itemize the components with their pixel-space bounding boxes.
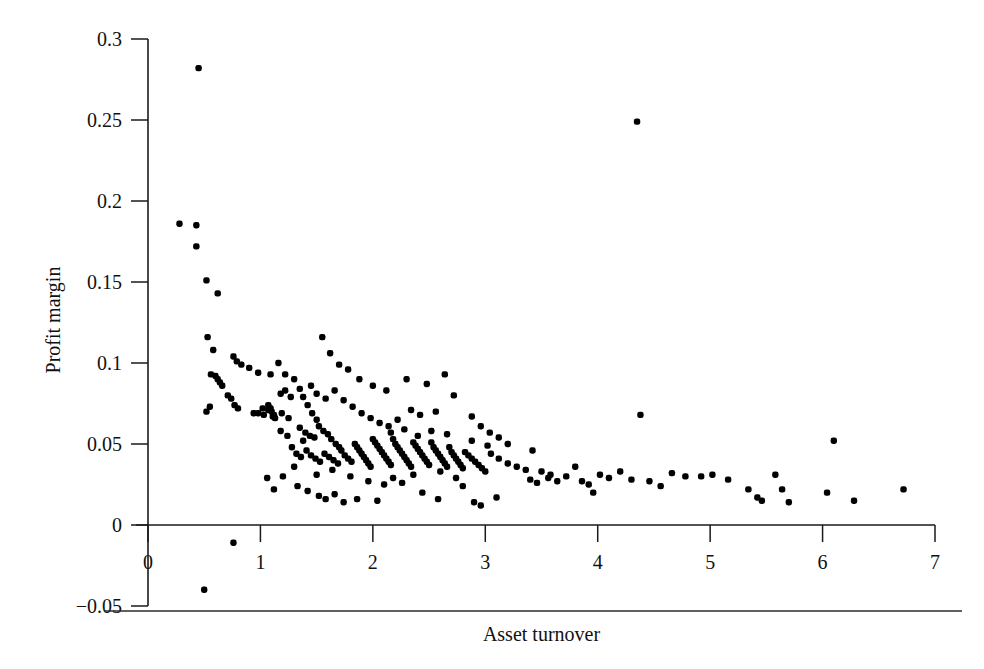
data-point	[288, 394, 294, 400]
data-point	[460, 483, 466, 489]
data-point	[322, 395, 328, 401]
data-point	[309, 410, 315, 416]
data-point	[437, 468, 443, 474]
data-point	[725, 476, 731, 482]
data-point	[590, 489, 596, 495]
data-point	[304, 488, 310, 494]
data-points-group	[176, 65, 906, 593]
data-point	[646, 478, 652, 484]
data-point	[657, 483, 663, 489]
y-axis: −0.0500.050.10.150.20.250.3	[76, 28, 148, 617]
data-point	[235, 405, 241, 411]
scatter-plot-figure: −0.0500.050.10.150.20.250.3 01234567 Ass…	[0, 0, 984, 669]
data-point	[851, 498, 857, 504]
data-point	[331, 491, 337, 497]
y-axis-tick-label-0.2: 0.2	[97, 190, 122, 212]
data-point	[383, 387, 389, 393]
data-point	[246, 365, 252, 371]
data-point	[410, 472, 416, 478]
data-point	[300, 438, 306, 444]
data-point	[493, 494, 499, 500]
data-point	[300, 394, 306, 400]
data-point	[505, 441, 511, 447]
y-axis-title: Profit margin	[42, 267, 65, 374]
data-point	[238, 361, 244, 367]
data-point	[634, 118, 640, 124]
data-point	[297, 386, 303, 392]
y-axis-tick-label-0.25: 0.25	[87, 109, 122, 131]
data-point	[478, 502, 484, 508]
data-point	[291, 463, 297, 469]
data-point	[390, 475, 396, 481]
data-point	[824, 489, 830, 495]
data-point	[403, 376, 409, 382]
data-point	[529, 447, 535, 453]
data-point	[831, 438, 837, 444]
plot-canvas: −0.0500.050.10.150.20.250.3 01234567 Ass…	[0, 0, 984, 669]
data-point	[275, 360, 281, 366]
data-point	[698, 473, 704, 479]
data-point	[285, 415, 291, 421]
data-point	[376, 420, 382, 426]
x-axis-tick-label-3: 3	[480, 551, 490, 573]
data-point	[261, 412, 267, 418]
data-point	[417, 412, 423, 418]
data-point	[484, 442, 490, 448]
data-point	[637, 412, 643, 418]
data-point	[279, 410, 285, 416]
data-point	[255, 370, 261, 376]
data-point	[451, 392, 457, 398]
data-point	[682, 473, 688, 479]
data-point	[442, 371, 448, 377]
data-point	[419, 489, 425, 495]
data-point	[433, 408, 439, 414]
data-point	[563, 473, 569, 479]
data-point	[304, 402, 310, 408]
data-point	[381, 481, 387, 487]
axis-titles-group: Asset turnoverProfit margin	[42, 267, 962, 645]
data-point	[523, 467, 529, 473]
data-point	[358, 410, 364, 416]
data-point	[367, 463, 373, 469]
data-point	[628, 476, 634, 482]
data-point	[496, 455, 502, 461]
data-point	[294, 483, 300, 489]
data-point	[291, 376, 297, 382]
data-point	[340, 397, 346, 403]
data-point	[900, 486, 906, 492]
data-point	[488, 451, 494, 457]
data-point	[345, 366, 351, 372]
x-axis-title: Asset turnover	[483, 623, 601, 645]
data-point	[308, 382, 314, 388]
data-point	[374, 498, 380, 504]
data-point	[772, 472, 778, 478]
x-axis-tick-label-0: 0	[143, 551, 153, 573]
data-point	[444, 463, 450, 469]
data-point	[272, 415, 278, 421]
data-point	[282, 371, 288, 377]
data-point	[215, 290, 221, 296]
data-point	[193, 222, 199, 228]
data-point	[176, 220, 182, 226]
data-point	[311, 434, 317, 440]
data-point	[759, 498, 765, 504]
data-point	[415, 433, 421, 439]
data-point	[365, 478, 371, 484]
data-point	[348, 459, 354, 465]
x-axis-tick-label-2: 2	[368, 551, 378, 573]
data-point	[460, 465, 466, 471]
x-axis-tick-label-6: 6	[818, 551, 828, 573]
data-point	[388, 429, 394, 435]
data-point	[534, 480, 540, 486]
data-point	[316, 493, 322, 499]
data-point	[284, 433, 290, 439]
data-point	[709, 472, 715, 478]
data-point	[264, 475, 270, 481]
data-point	[514, 463, 520, 469]
data-point	[408, 407, 414, 413]
data-point	[313, 417, 319, 423]
data-point	[347, 473, 353, 479]
data-point	[370, 382, 376, 388]
x-axis-tick-label-4: 4	[593, 551, 603, 573]
data-point	[399, 480, 405, 486]
